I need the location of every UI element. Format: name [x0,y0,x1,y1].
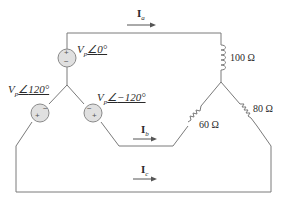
source-a-plus: + [64,49,69,57]
source-b-minus: − [43,105,48,113]
three-phase-circuit-diagram: + − + − − + Vp∠0° Vp∠120° Vp∠−120° 100 Ω… [0,0,282,198]
source-b-label: Vp∠120° [8,84,49,95]
wire-phase-b [49,85,67,104]
source-c-plus: + [92,112,97,120]
source-a-minus: − [64,58,69,66]
source-c-minus: − [87,105,92,113]
current-ic-label: Ic [141,164,148,175]
source-c-label: Vp∠−120° [97,92,146,103]
arrow-ia-icon [127,23,156,28]
inductor-icon [221,45,226,70]
inductor-100-label: 100 Ω [230,53,255,63]
resistor-60-label: 60 Ω [199,120,219,130]
source-a-label: Vp∠0° [77,44,107,55]
current-ib-label: Ib [141,124,149,135]
wire-phase-c [67,85,84,104]
source-b-plus: + [35,112,40,120]
resistor-80-label: 80 Ω [253,104,273,114]
current-ia-label: Ia [137,8,145,19]
